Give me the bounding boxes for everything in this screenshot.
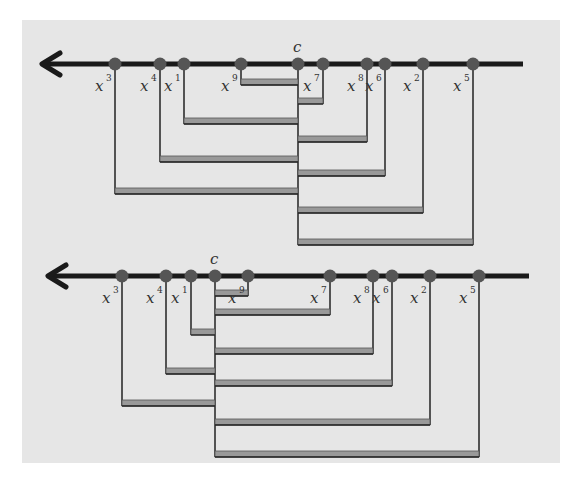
point-node [317, 58, 330, 71]
point-node [116, 270, 129, 283]
point-label: x [228, 289, 237, 307]
point-label: x [310, 289, 319, 307]
center-node [292, 58, 305, 71]
point-label: x [410, 289, 419, 307]
point-node [178, 58, 191, 71]
point-node [386, 270, 399, 283]
point-label: x [303, 77, 312, 95]
point-label-superscript: 6 [376, 73, 382, 83]
point-label: x [95, 77, 104, 95]
point-label-superscript: 5 [470, 285, 476, 295]
center-node [209, 270, 222, 283]
pair-bar [298, 170, 385, 176]
pair-bar [122, 400, 215, 406]
point-label: x [353, 289, 362, 307]
point-label-superscript: 4 [151, 73, 157, 83]
center-label: c [210, 250, 219, 268]
point-label-superscript: 8 [358, 73, 364, 83]
point-node [473, 270, 486, 283]
point-label: x [459, 289, 468, 307]
center-label: c [293, 38, 302, 56]
number-line-diagram: cx3x4x1x9x7x8x6x2x5cx3x4x1x9x7x8x6x2x5 [0, 0, 587, 494]
point-label-superscript: 9 [232, 73, 238, 83]
point-node [185, 270, 198, 283]
point-node [235, 58, 248, 71]
point-label: x [102, 289, 111, 307]
point-label: x [347, 77, 356, 95]
pair-bar [184, 118, 298, 124]
pair-bar [215, 309, 330, 315]
point-label-superscript: 2 [421, 285, 427, 295]
pair-bar [298, 239, 473, 245]
pair-bar [115, 188, 298, 194]
point-node [379, 58, 392, 71]
pair-bar [298, 207, 423, 213]
point-node [361, 58, 374, 71]
pair-bar [241, 79, 298, 85]
pair-bar [191, 329, 215, 335]
point-label-superscript: 8 [364, 285, 370, 295]
point-node [467, 58, 480, 71]
point-label: x [164, 77, 173, 95]
point-label-superscript: 2 [414, 73, 420, 83]
point-label-superscript: 5 [464, 73, 470, 83]
point-label: x [146, 289, 155, 307]
pair-bar [215, 419, 430, 425]
point-node [160, 270, 173, 283]
point-label-superscript: 3 [106, 73, 112, 83]
point-label-superscript: 7 [321, 285, 327, 295]
point-node [424, 270, 437, 283]
point-label-superscript: 1 [182, 285, 188, 295]
pair-bar [215, 348, 373, 354]
point-label-superscript: 9 [239, 285, 245, 295]
point-label: x [140, 77, 149, 95]
point-label-superscript: 4 [157, 285, 163, 295]
point-label: x [403, 77, 412, 95]
pair-bar [166, 368, 215, 374]
point-node [242, 270, 255, 283]
pair-bar [215, 451, 479, 457]
pair-bar [215, 380, 392, 386]
point-label: x [221, 77, 230, 95]
point-label: x [171, 289, 180, 307]
point-label: x [372, 289, 381, 307]
point-label-superscript: 1 [175, 73, 181, 83]
point-node [367, 270, 380, 283]
pair-bar [298, 136, 367, 142]
pair-bar [298, 98, 323, 104]
point-label-superscript: 7 [314, 73, 320, 83]
diagram-top: cx3x4x1x9x7x8x6x2x5 [42, 38, 523, 245]
point-label-superscript: 6 [383, 285, 389, 295]
diagram-bottom: cx3x4x1x9x7x8x6x2x5 [48, 250, 529, 457]
point-node [417, 58, 430, 71]
pair-bar [160, 156, 298, 162]
point-label: x [365, 77, 374, 95]
point-node [109, 58, 122, 71]
point-label: x [453, 77, 462, 95]
point-label-superscript: 3 [113, 285, 119, 295]
point-node [324, 270, 337, 283]
point-node [154, 58, 167, 71]
